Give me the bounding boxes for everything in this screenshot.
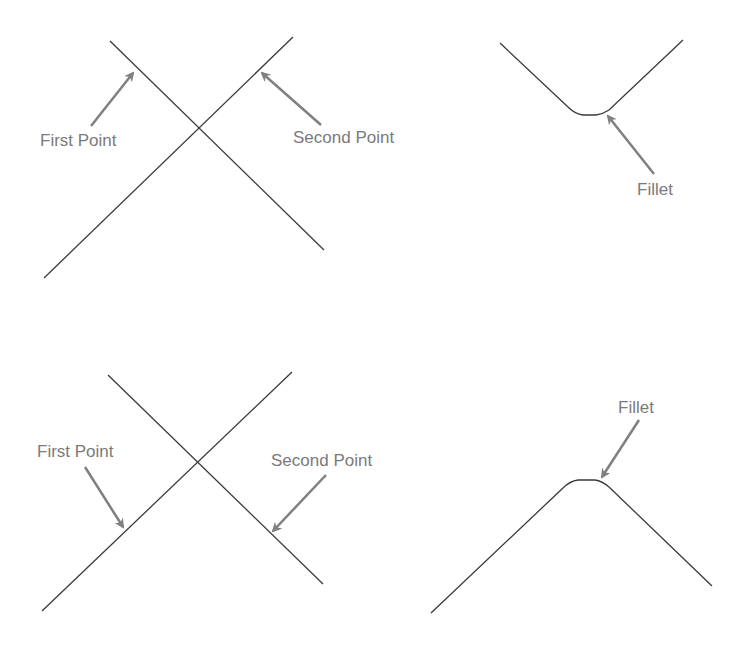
line-ascending <box>44 37 293 278</box>
fillet-label: Fillet <box>637 181 673 198</box>
first-point-label: First Point <box>40 132 117 149</box>
filleted-corner-v <box>500 40 683 115</box>
fillet-arrow-icon <box>602 420 639 477</box>
panel-bottom-right <box>431 420 712 613</box>
panel-top-left <box>44 37 324 278</box>
fillet-diagram: First Point Second Point Fillet First Po… <box>0 0 755 652</box>
first-point-arrow-icon <box>85 467 123 527</box>
panel-top-right <box>500 40 683 174</box>
second-point-arrow-icon <box>273 475 326 531</box>
fillet-label: Fillet <box>618 399 654 416</box>
fillet-arrow-icon <box>608 116 654 174</box>
line-ascending <box>42 372 292 611</box>
line-descending <box>108 375 323 584</box>
diagram-drawing <box>0 0 755 652</box>
line-descending <box>110 41 324 250</box>
second-point-label: Second Point <box>271 452 372 469</box>
second-point-arrow-icon <box>262 73 321 125</box>
panel-bottom-left <box>42 372 326 611</box>
filleted-corner-inverted-v <box>431 480 712 613</box>
first-point-arrow-icon <box>91 73 133 126</box>
first-point-label: First Point <box>37 443 114 460</box>
second-point-label: Second Point <box>293 129 394 146</box>
